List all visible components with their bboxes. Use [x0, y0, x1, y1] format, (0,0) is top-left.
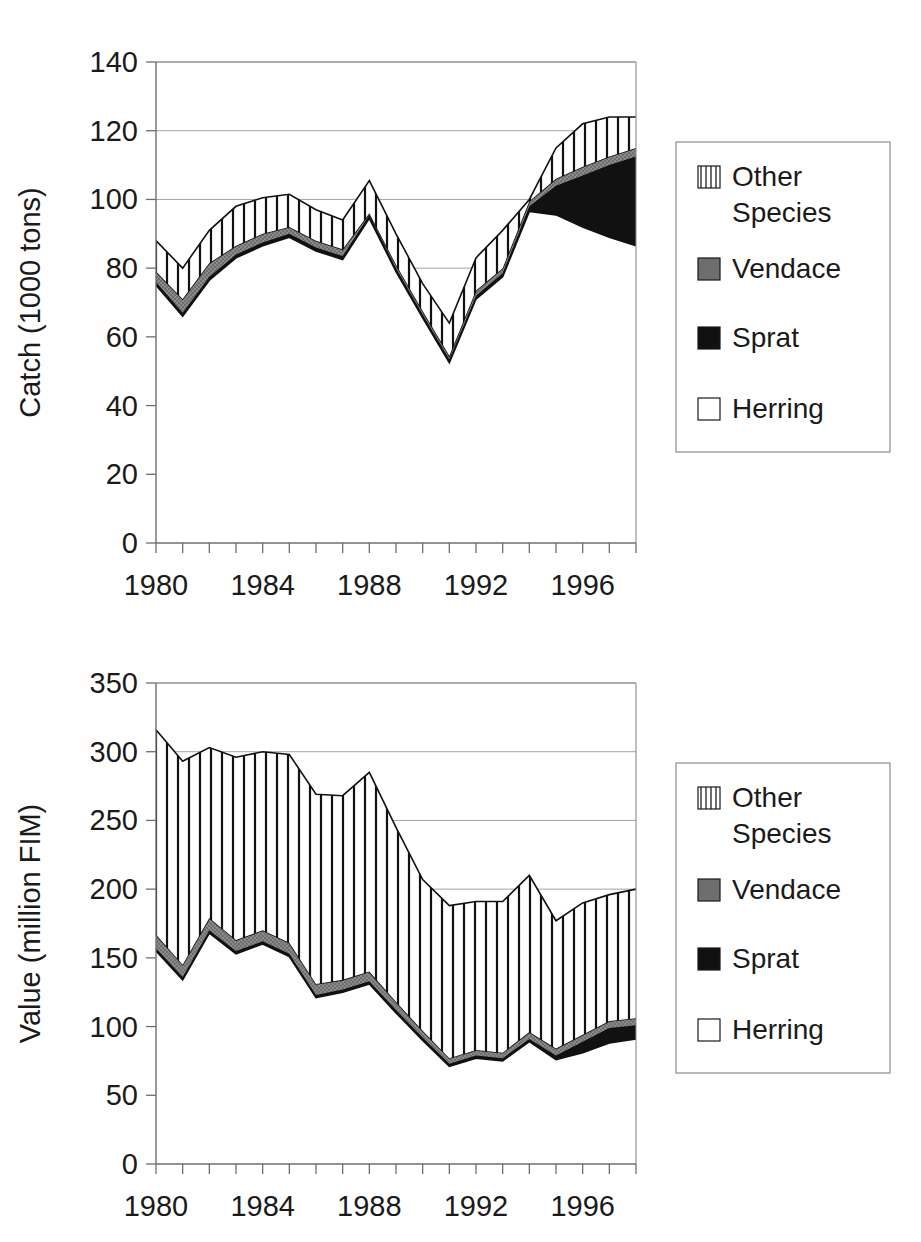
gray-fill-swatch	[698, 879, 720, 901]
legend-item-herring[interactable]: Herring	[698, 1014, 824, 1045]
legend-label: Herring	[732, 393, 824, 424]
x-axis: 19801984198819921996	[124, 543, 636, 601]
y-tick-label: 120	[90, 115, 138, 147]
x-tick-label: 1980	[124, 1190, 189, 1222]
catch-chart-svg: 02040608010012014019801984198819921996Ca…	[0, 0, 921, 621]
vertical-stripes-swatch	[698, 787, 720, 809]
y-tick-label: 80	[106, 252, 138, 284]
stacked-areas	[156, 730, 636, 1164]
x-tick-label: 1984	[230, 1190, 295, 1222]
legend-label: Sprat	[732, 943, 799, 974]
gray-fill-swatch	[698, 258, 720, 280]
y-axis-title-group: Value (million FIM)	[14, 804, 46, 1044]
legend-label: Sprat	[732, 322, 799, 353]
y-axis-title: Value (million FIM)	[14, 804, 46, 1044]
legend: OtherSpeciesVendaceSpratHerring	[676, 763, 890, 1073]
legend-item-vendace[interactable]: Vendace	[698, 874, 841, 905]
y-tick-label: 100	[90, 183, 138, 215]
legend-label-line2: Species	[732, 197, 832, 228]
x-tick-label: 1992	[444, 569, 509, 601]
y-axis-title: Catch (1000 tons)	[14, 187, 46, 418]
legend-label: Vendace	[732, 874, 841, 905]
y-tick-label: 140	[90, 46, 138, 78]
y-tick-label: 20	[106, 458, 138, 490]
y-tick-label: 250	[90, 804, 138, 836]
x-tick-label: 1984	[230, 569, 295, 601]
y-tick-label: 200	[90, 873, 138, 905]
legend-label-line2: Species	[732, 818, 832, 849]
value-chart-svg: 0501001502002503003501980198419881992199…	[0, 621, 921, 1242]
x-tick-label: 1988	[337, 1190, 402, 1222]
legend-item-sprat[interactable]: Sprat	[698, 943, 799, 974]
legend-label: Herring	[732, 1014, 824, 1045]
legend-label: Vendace	[732, 253, 841, 284]
x-tick-label: 1980	[124, 569, 189, 601]
x-tick-label: 1996	[550, 1190, 615, 1222]
y-tick-label: 100	[90, 1011, 138, 1043]
y-axis-title-group: Catch (1000 tons)	[14, 187, 46, 418]
white-fill-swatch	[698, 398, 720, 420]
y-tick-label: 0	[122, 1148, 138, 1180]
catch-chart-figure: 02040608010012014019801984198819921996Ca…	[0, 0, 921, 621]
legend-item-vendace[interactable]: Vendace	[698, 253, 841, 284]
legend-item-herring[interactable]: Herring	[698, 393, 824, 424]
black-fill-swatch	[698, 948, 720, 970]
stacked-areas	[156, 117, 636, 543]
y-tick-label: 300	[90, 736, 138, 768]
x-axis: 19801984198819921996	[124, 1164, 636, 1222]
x-tick-label: 1988	[337, 569, 402, 601]
legend: OtherSpeciesVendaceSpratHerring	[676, 142, 890, 452]
x-tick-label: 1992	[444, 1190, 509, 1222]
y-tick-label: 50	[106, 1079, 138, 1111]
y-axis: 020406080100120140	[90, 46, 156, 559]
y-tick-label: 0	[122, 527, 138, 559]
legend-label: Other	[732, 782, 802, 813]
legend-item-sprat[interactable]: Sprat	[698, 322, 799, 353]
y-tick-label: 350	[90, 667, 138, 699]
y-tick-label: 150	[90, 942, 138, 974]
vertical-stripes-swatch	[698, 166, 720, 188]
x-tick-label: 1996	[550, 569, 615, 601]
black-fill-swatch	[698, 327, 720, 349]
white-fill-swatch	[698, 1019, 720, 1041]
value-chart-figure: 0501001502002503003501980198419881992199…	[0, 621, 921, 1242]
legend-label: Other	[732, 161, 802, 192]
y-tick-label: 60	[106, 321, 138, 353]
y-axis: 050100150200250300350	[90, 667, 156, 1180]
y-tick-label: 40	[106, 390, 138, 422]
